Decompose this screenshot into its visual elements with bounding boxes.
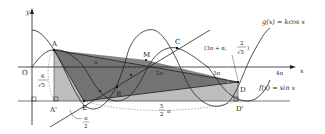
tick-label-3pi: 3π: [213, 70, 220, 76]
label-E: E: [82, 104, 87, 112]
tick-label-pi: π: [94, 59, 98, 65]
coord-pointer: [232, 55, 238, 80]
coord-annotation-close: ): [247, 45, 249, 51]
angle-den: 2: [84, 123, 88, 129]
point-M: [145, 59, 147, 61]
coord-annotation-open: (3π + α,: [204, 45, 227, 51]
tick-label-2pi: 2π: [156, 70, 163, 76]
y-axis-arrow: [30, 8, 34, 14]
height-den: √5: [38, 82, 46, 88]
y-axis-label: y: [25, 8, 30, 16]
point-C: [176, 47, 178, 49]
label-C: C: [175, 38, 180, 46]
g-function-label: g(x) = kcos x: [262, 18, 305, 26]
height-dashed-arc: [48, 50, 54, 101]
length-num: 5: [160, 103, 164, 109]
origin-label: O: [22, 69, 28, 77]
length-den: 2: [160, 111, 164, 117]
coord-annotation-den: √5: [237, 49, 245, 55]
label-D-prime: D': [236, 105, 244, 113]
x-axis-arrow: [290, 65, 296, 69]
point-D: [237, 81, 239, 83]
point-mid-2: [130, 74, 132, 76]
angle-num: π: [84, 115, 88, 121]
point-E: [83, 100, 85, 102]
label-M: M: [143, 51, 150, 59]
f-function-label: f(x) = sin x: [258, 84, 295, 92]
label-D: D: [240, 86, 246, 94]
right-angle-marker-origin: [32, 97, 36, 101]
point-A: [53, 49, 55, 51]
coord-annotation-num: 2: [240, 40, 244, 46]
label-A: A: [51, 40, 58, 48]
tick-label-4pi: 4π: [276, 70, 283, 76]
height-num: 6: [41, 73, 45, 79]
point-mid-1: [99, 90, 101, 92]
length-suffix: π: [167, 108, 171, 114]
label-A-prime: A': [49, 106, 57, 114]
x-axis-label: x: [300, 67, 304, 75]
label-B: B: [116, 90, 121, 98]
point-B: [116, 86, 118, 88]
diagram-canvas: y x O π 2π 3π 4π A A' B C D D' E M g(x) …: [0, 0, 325, 134]
